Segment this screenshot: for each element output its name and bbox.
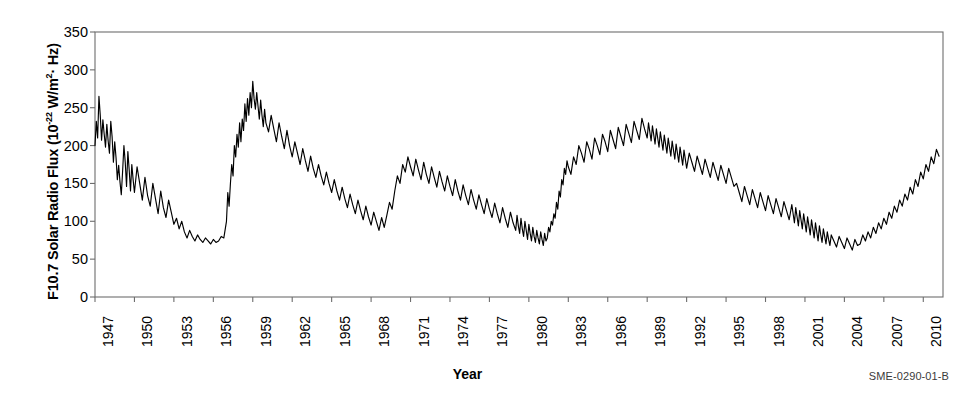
x-axis-tick-label: 1977 — [495, 316, 509, 347]
x-axis-tick-label: 1980 — [535, 316, 549, 347]
x-axis-tick-label: 2004 — [850, 316, 864, 347]
x-axis-tick-label: 1995 — [732, 316, 746, 347]
x-axis-tick-label: 1992 — [693, 316, 707, 347]
x-axis-tick-label: 2007 — [890, 316, 904, 347]
x-axis-tick-label: 1989 — [653, 316, 667, 347]
x-axis-tick-label: 1956 — [219, 316, 233, 347]
x-axis-tick-label: 1950 — [140, 316, 154, 347]
x-axis-tick-label: 1974 — [456, 316, 470, 347]
x-axis-tick-label: 1998 — [772, 316, 786, 347]
x-axis-tick-label: 2010 — [929, 316, 943, 347]
x-axis-tick-label: 1959 — [259, 316, 273, 347]
x-axis-tick-label: 1947 — [101, 316, 115, 347]
x-axis-tick-label: 1962 — [298, 316, 312, 347]
x-axis-tick-label: 1953 — [180, 316, 194, 347]
chart-figure: F10.7 Solar Radio Flux (10-22 W/m2· Hz) … — [0, 0, 967, 400]
x-axis-tick-label: 1968 — [377, 316, 391, 347]
figure-credit: SME-0290-01-B — [869, 370, 949, 382]
x-axis-tick-label: 1965 — [338, 316, 352, 347]
x-axis-tick-labels: 1947195019531956195919621965196819711974… — [0, 0, 967, 400]
x-axis-tick-label: 2001 — [811, 316, 825, 347]
x-axis-title: Year — [453, 366, 483, 382]
x-axis-tick-label: 1986 — [614, 316, 628, 347]
x-axis-title-container: Year — [0, 366, 967, 382]
x-axis-tick-label: 1971 — [417, 316, 431, 347]
x-axis-tick-label: 1983 — [574, 316, 588, 347]
